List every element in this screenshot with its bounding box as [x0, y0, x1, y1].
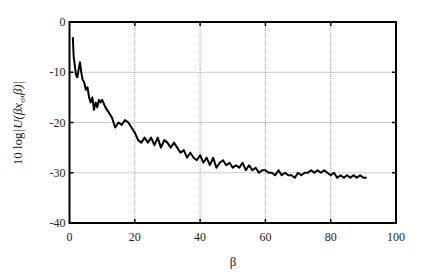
y-tick-label: -40: [50, 216, 66, 230]
x-tick-label: 60: [259, 230, 271, 244]
x-tick-label: 20: [129, 230, 141, 244]
x-axis-ticks: 020406080100: [67, 22, 406, 244]
y-axis-label: 10 log|U(βxo,β)|: [10, 81, 27, 166]
x-axis-label: β: [230, 254, 237, 269]
line-chart: 0-10-20-30-40 020406080100 β 10 log|U(βx…: [0, 0, 422, 276]
y-tick-label: -30: [50, 166, 66, 180]
x-tick-label: 100: [387, 230, 405, 244]
y-tick-label: -20: [50, 116, 66, 130]
y-tick-label: 0: [60, 15, 66, 29]
x-tick-label: 80: [325, 230, 337, 244]
data-line: [73, 37, 367, 178]
y-tick-label: -10: [50, 65, 66, 79]
x-tick-label: 0: [67, 230, 73, 244]
x-tick-label: 40: [194, 230, 206, 244]
